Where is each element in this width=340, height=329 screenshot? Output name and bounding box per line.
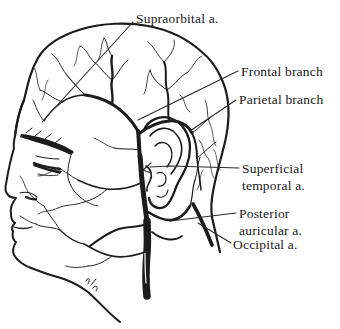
trunk-lower — [146, 221, 148, 296]
leader-superficial-temporal — [150, 166, 239, 168]
face-vessels — [20, 138, 147, 268]
head-outline — [5, 24, 228, 322]
occipital-artery-vessel — [193, 204, 212, 245]
label-frontal-branch: Frontal branch — [241, 63, 323, 80]
facial-artery-vessel — [84, 244, 145, 257]
frontal-branch-vessel — [33, 38, 138, 131]
superficial-temporal-trunk — [138, 131, 147, 296]
cheek-contour — [80, 197, 98, 206]
trunk-upper — [138, 131, 140, 158]
eyelid-crease — [36, 156, 59, 159]
label-occipital-artery: Occipital a. — [233, 236, 298, 253]
ear-concha — [157, 172, 166, 186]
orbital-rim-line — [68, 151, 80, 197]
leader-supraorbital — [42, 22, 133, 122]
leader-frontal-branch — [138, 71, 238, 120]
eye — [33, 156, 62, 176]
figure-canvas: Supraorbital a. Frontal branch Parietal … — [0, 0, 340, 329]
label-superficial-temporal-artery: Superficial temporal a. — [242, 160, 312, 194]
label-posterior-auricular-artery: Posterior auricular a. — [239, 205, 317, 239]
face-profile — [5, 100, 120, 322]
label-supraorbital-artery: Supraorbital a. — [136, 10, 218, 27]
signature-mark — [86, 278, 97, 291]
eyebrow — [20, 128, 74, 155]
label-parietal-branch: Parietal branch — [239, 91, 323, 108]
superficial-temporal-leader-arrowhead — [143, 163, 151, 173]
mouth-line — [14, 227, 32, 229]
transverse-facial-vessel — [78, 180, 141, 189]
ear-tragus — [146, 166, 151, 191]
posterior-auricular-vessel — [148, 206, 190, 220]
ear-lobe-line — [157, 190, 168, 197]
ear-antihelix — [155, 142, 172, 167]
